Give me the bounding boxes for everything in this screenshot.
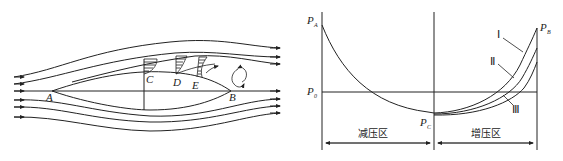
leader-line-1 — [503, 38, 523, 52]
label-pb: P B — [539, 21, 551, 35]
svg-text:A: A — [313, 22, 318, 28]
flow-diagram: A B C D E — [14, 41, 280, 131]
svg-text:C: C — [427, 124, 432, 130]
point-label-d: D — [172, 76, 181, 88]
zone-label-decrease: 减压区 — [358, 128, 388, 139]
svg-text:B: B — [547, 29, 551, 35]
pressure-curve-decrease — [322, 25, 434, 113]
pressure-distribution-chart: Ⅰ Ⅱ Ⅲ P A P B P 0 P C 减压区 增压区 — [306, 12, 551, 150]
backflow-arrow-icon — [206, 66, 218, 73]
label-p0: P 0 — [306, 85, 317, 99]
point-label-e: E — [191, 79, 199, 91]
streamline-lower-1 — [14, 99, 280, 116]
svg-text:P: P — [419, 116, 427, 128]
svg-text:P: P — [306, 85, 314, 97]
pressure-curve-3 — [434, 62, 537, 115]
svg-text:0: 0 — [314, 93, 317, 99]
figure: A B C D E Ⅰ Ⅱ Ⅲ P A — [0, 0, 563, 161]
label-pc: P C — [419, 116, 432, 130]
velocity-profile-d — [176, 56, 187, 74]
label-pa: P A — [306, 14, 318, 28]
zone-label-increase: 增压区 — [471, 127, 501, 139]
pressure-curve-2 — [434, 48, 537, 114]
vortex-icon — [232, 69, 244, 87]
svg-text:P: P — [539, 21, 547, 33]
svg-text:P: P — [306, 14, 314, 26]
point-label-c: C — [146, 73, 154, 85]
curve-label-3: Ⅲ — [512, 103, 520, 115]
body-lower-surface — [52, 91, 231, 110]
body-upper-surface — [52, 72, 231, 91]
curve-label-1: Ⅰ — [497, 28, 500, 40]
leader-line-2 — [498, 64, 514, 78]
curve-label-2: Ⅱ — [490, 55, 495, 67]
point-label-a: A — [45, 91, 53, 103]
point-label-b: B — [229, 91, 236, 103]
pressure-curve-1 — [434, 28, 537, 113]
